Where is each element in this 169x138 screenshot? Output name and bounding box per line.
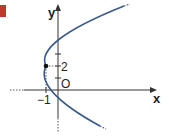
origin-label: O: [61, 77, 70, 91]
curve-dotted-end-bottom: [100, 126, 106, 129]
y-axis-arrow-icon: [55, 4, 61, 11]
x-axis-label: x: [153, 91, 161, 106]
y-tick-label-2: 2: [61, 60, 68, 74]
vertex-point: [44, 64, 49, 69]
y-axis-label: y: [48, 5, 56, 20]
parabola-graph: y x O 2 −1: [0, 0, 169, 138]
curve-dotted-end-top: [124, 4, 130, 6]
x-tick-label-minus-1: −1: [37, 93, 51, 107]
